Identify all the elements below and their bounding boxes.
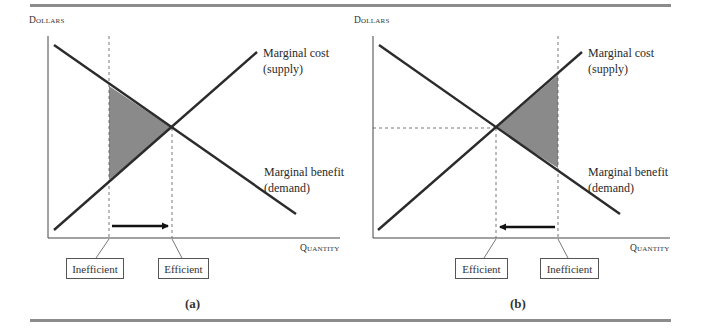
- y-axis-label-a: Dollars: [29, 15, 65, 25]
- supply-label-a: Marginal cost: [263, 46, 329, 60]
- demand-curve-b: [379, 45, 620, 214]
- efficient-box-a: Efficient: [158, 258, 209, 279]
- demand-sublabel-a: (demand): [264, 181, 310, 195]
- leader-inefficient-a: [96, 239, 109, 258]
- efficient-box-b: Efficient: [455, 258, 508, 279]
- inefficient-box-b: Inefficient: [540, 258, 599, 279]
- demand-label-b: Marginal benefit: [588, 165, 668, 179]
- supply-sublabel-b: (supply): [588, 62, 628, 76]
- panel-caption-b: (b): [510, 296, 526, 312]
- panel-caption-a: (a): [185, 296, 200, 312]
- inefficient-box-a: Inefficient: [66, 258, 124, 279]
- leader-efficient-a: [172, 239, 182, 258]
- deadweight-loss-area-b: [496, 75, 558, 168]
- leader-efficient-b: [484, 239, 496, 258]
- supply-label-b: Marginal cost: [588, 46, 654, 60]
- demand-curve-a: [54, 45, 296, 214]
- deadweight-loss-area-a: [109, 86, 172, 180]
- demand-label-a: Marginal benefit: [264, 165, 344, 179]
- top-rule: [30, 4, 671, 7]
- supply-sublabel-a: (supply): [263, 62, 303, 76]
- x-axis-label-b: Quantity: [630, 243, 670, 253]
- y-axis-label-b: Dollars: [354, 15, 390, 25]
- supply-curve-a: [54, 52, 257, 230]
- leader-inefficient-b: [558, 239, 568, 258]
- bottom-rule: [30, 319, 671, 322]
- x-axis-label-a: Quantity: [300, 243, 340, 253]
- demand-sublabel-b: (demand): [588, 181, 634, 195]
